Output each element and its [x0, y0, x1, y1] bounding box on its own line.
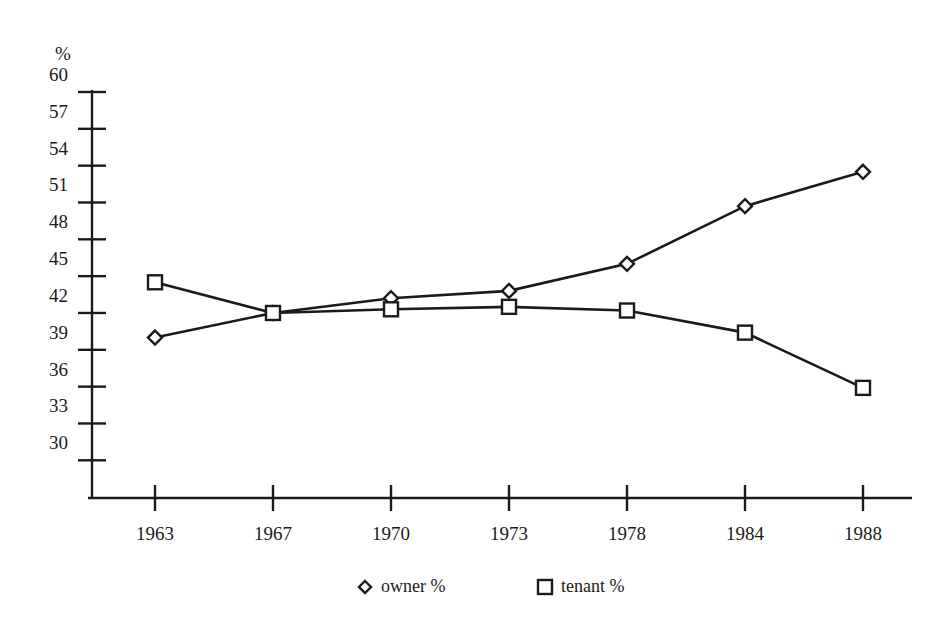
x-tick-label: 1970 — [372, 523, 410, 544]
data-point-marker-square — [620, 304, 634, 318]
y-tick-label: 36 — [49, 359, 68, 380]
y-tick-label: 45 — [49, 248, 68, 269]
x-tick-label: 1988 — [844, 523, 882, 544]
data-point-marker-diamond — [502, 284, 516, 298]
data-point-marker-square — [502, 300, 516, 314]
data-point-marker-square — [738, 326, 752, 340]
y-tick-label: 57 — [49, 101, 68, 122]
y-tick-label: 39 — [49, 322, 68, 343]
x-tick-label: 1967 — [254, 523, 292, 544]
data-point-marker-square — [266, 306, 280, 320]
chart-canvas: %605754514845423936333019631967197019731… — [0, 0, 950, 636]
legend-marker-square — [538, 580, 552, 594]
x-tick-label: 1984 — [726, 523, 765, 544]
y-tick-label: 48 — [49, 211, 68, 232]
x-tick-label: 1973 — [490, 523, 528, 544]
y-tick-label: 30 — [49, 432, 68, 453]
data-point-marker-diamond — [148, 331, 162, 345]
y-tick-label: 54 — [49, 138, 69, 159]
x-tick-label: 1978 — [608, 523, 646, 544]
data-point-marker-square — [856, 381, 870, 395]
data-point-marker-diamond — [738, 199, 752, 213]
y-tick-label: 42 — [49, 285, 68, 306]
legend-label-owner: owner % — [381, 576, 445, 596]
data-point-marker-square — [148, 275, 162, 289]
y-axis-unit-label: % — [55, 43, 71, 64]
y-tick-label: 51 — [49, 174, 68, 195]
legend-marker-diamond — [359, 581, 371, 593]
y-tick-label: 60 — [49, 64, 68, 85]
line-chart: %605754514845423936333019631967197019731… — [0, 0, 950, 636]
y-tick-label: 33 — [49, 395, 68, 416]
data-point-marker-diamond — [620, 257, 634, 271]
data-point-marker-square — [384, 302, 398, 316]
data-point-marker-diamond — [856, 165, 870, 179]
x-tick-label: 1963 — [136, 523, 174, 544]
legend-label-tenant: tenant % — [561, 576, 624, 596]
